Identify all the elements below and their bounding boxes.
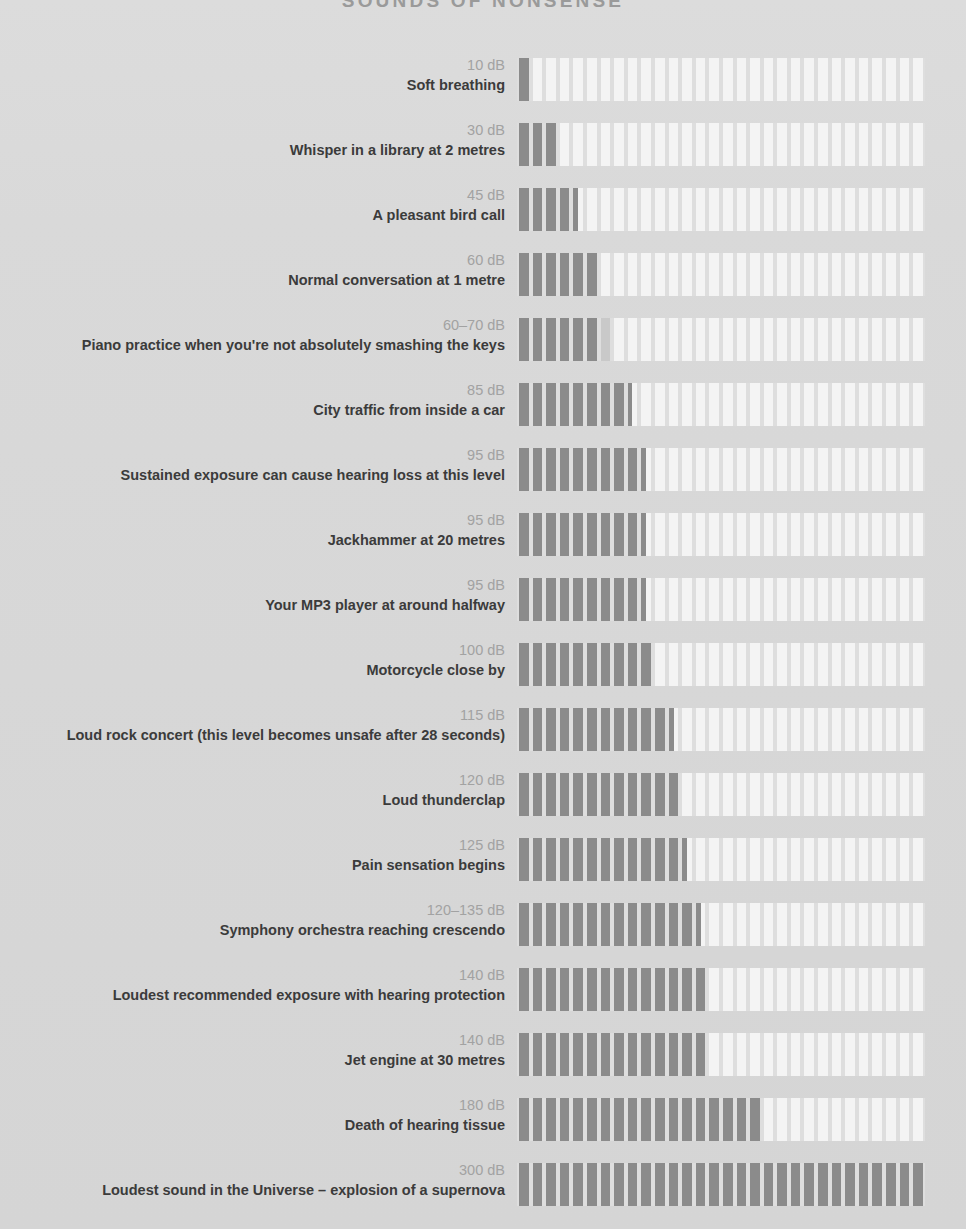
bar-segment <box>612 318 626 361</box>
bar-segment <box>585 838 599 881</box>
bar-segment <box>898 643 912 686</box>
bar-segment <box>653 383 667 426</box>
bar-segment <box>694 1033 708 1076</box>
bar-segment <box>775 448 789 491</box>
bar-segment <box>694 708 708 751</box>
bar-segment <box>721 1033 735 1076</box>
decibel-bar <box>517 708 925 751</box>
bar-segment <box>816 643 830 686</box>
bar-segment <box>735 58 749 101</box>
bar-segment <box>694 253 708 296</box>
bar-segment <box>762 253 776 296</box>
bar-segment <box>816 58 830 101</box>
bar-segment <box>748 383 762 426</box>
bar-segment <box>707 578 721 621</box>
bar-segment <box>775 123 789 166</box>
chart-row: 95 dBJackhammer at 20 metres <box>0 511 966 576</box>
bar-segment <box>571 968 585 1011</box>
bar-segment <box>571 253 585 296</box>
bar-segment <box>884 643 898 686</box>
bar-segment <box>599 513 613 556</box>
bar-segment <box>667 513 681 556</box>
bar-segment <box>721 773 735 816</box>
bar-segment <box>626 838 640 881</box>
sound-description-label: Death of hearing tissue <box>0 1115 505 1135</box>
decibel-value-label: 100 dB <box>0 641 505 660</box>
bar-segment <box>707 383 721 426</box>
chart-row: 140 dBLoudest recommended exposure with … <box>0 966 966 1031</box>
bar-segment <box>599 318 613 361</box>
bar-segment <box>762 448 776 491</box>
bar-segment <box>884 1033 898 1076</box>
bar-segment <box>830 708 844 751</box>
bar-segment <box>721 643 735 686</box>
bar-segment <box>775 903 789 946</box>
bar-segment <box>830 188 844 231</box>
bar-segment <box>571 773 585 816</box>
bar-segment <box>558 708 572 751</box>
bar-segment <box>517 123 531 166</box>
bar-segment <box>517 383 531 426</box>
bar-segment <box>748 123 762 166</box>
bar-segment <box>870 643 884 686</box>
bar-segment <box>762 773 776 816</box>
bar-segment <box>653 708 667 751</box>
bar-segment <box>585 448 599 491</box>
bar-segment <box>653 903 667 946</box>
bar-segment <box>911 773 925 816</box>
chart-row: 140 dBJet engine at 30 metres <box>0 1031 966 1096</box>
bar-segment <box>830 1033 844 1076</box>
bar-segment <box>735 1033 749 1076</box>
bar-segment <box>857 513 871 556</box>
bar-segment <box>748 903 762 946</box>
bar-segment <box>721 448 735 491</box>
bar-segment <box>694 318 708 361</box>
bar-segment <box>544 1163 558 1206</box>
bar-segment <box>802 188 816 231</box>
bar-segment <box>558 903 572 946</box>
bar-segment <box>721 383 735 426</box>
bar-segment <box>639 838 653 881</box>
bar-segment <box>517 58 531 101</box>
bar-segment <box>911 58 925 101</box>
bar-segment <box>639 578 653 621</box>
bar-segment <box>667 448 681 491</box>
bar-segment <box>531 448 545 491</box>
bar-segment <box>721 708 735 751</box>
bar-segment <box>775 578 789 621</box>
bar-segment <box>802 578 816 621</box>
bar-segment <box>707 708 721 751</box>
chart-row: 300 dBLoudest sound in the Universe – ex… <box>0 1161 966 1226</box>
row-label-group: 115 dBLoud rock concert (this level beco… <box>0 706 505 745</box>
bar-segment <box>911 123 925 166</box>
bar-segment <box>911 253 925 296</box>
bar-segment <box>639 1098 653 1141</box>
row-label-group: 125 dBPain sensation begins <box>0 836 505 875</box>
row-label-group: 140 dBJet engine at 30 metres <box>0 1031 505 1070</box>
bar-segment <box>816 773 830 816</box>
bar-segment <box>707 448 721 491</box>
bar-segment <box>612 1098 626 1141</box>
bar-segment <box>680 643 694 686</box>
bar-segment <box>898 578 912 621</box>
decibel-bar <box>517 1163 925 1206</box>
bar-segment <box>721 318 735 361</box>
bar-segment <box>558 643 572 686</box>
bar-segment <box>626 188 640 231</box>
bar-segment <box>571 838 585 881</box>
bar-segment <box>898 1033 912 1076</box>
bar-segment <box>544 643 558 686</box>
bar-segment <box>816 968 830 1011</box>
bar-segment <box>599 708 613 751</box>
bar-segment <box>911 968 925 1011</box>
bar-segment <box>789 448 803 491</box>
bar-segment <box>748 513 762 556</box>
bar-segment <box>544 188 558 231</box>
decibel-bar <box>517 253 925 296</box>
bar-segment <box>639 903 653 946</box>
bar-segment <box>585 1098 599 1141</box>
bar-segment <box>762 708 776 751</box>
bar-segment <box>762 58 776 101</box>
bar-segment <box>748 188 762 231</box>
bar-segment <box>544 383 558 426</box>
